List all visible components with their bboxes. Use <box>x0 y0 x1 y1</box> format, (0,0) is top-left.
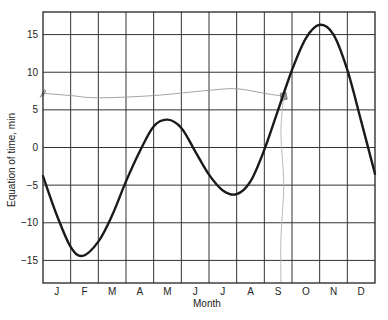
y-tick-label: −5 <box>27 180 39 191</box>
month-label: N <box>330 286 337 297</box>
month-label: M <box>108 286 116 297</box>
pencil-line <box>281 96 284 283</box>
pencil-line <box>43 89 284 98</box>
month-label: A <box>247 286 254 297</box>
month-label: A <box>136 286 143 297</box>
y-tick-label: 15 <box>27 29 39 40</box>
y-tick-label: 10 <box>27 67 39 78</box>
month-label: O <box>302 286 310 297</box>
month-label: J <box>193 286 198 297</box>
month-label: D <box>358 286 365 297</box>
y-tick-label: −15 <box>21 255 38 266</box>
month-label: J <box>54 286 59 297</box>
x-axis-label: Month <box>193 298 221 309</box>
equation-of-time-chart: 151050−5−10−15 JFMAMJJASOND <box>0 0 388 320</box>
x-axis-month-labels: JFMAMJJASOND <box>54 286 364 297</box>
y-axis-label: Equation of time, min <box>6 113 17 207</box>
y-tick-label: 0 <box>32 142 38 153</box>
grid-lines <box>43 12 375 283</box>
month-label: S <box>275 286 282 297</box>
month-label: F <box>81 286 87 297</box>
y-axis-tick-labels: 151050−5−10−15 <box>21 29 38 266</box>
y-tick-label: −10 <box>21 217 38 228</box>
month-label: M <box>163 286 171 297</box>
y-tick-label: 5 <box>32 104 38 115</box>
month-label: J <box>220 286 225 297</box>
